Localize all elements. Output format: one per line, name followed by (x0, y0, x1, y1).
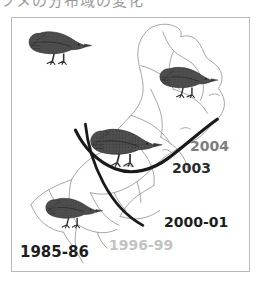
year-label-1985-86: 1985-86 (20, 243, 89, 261)
bird-northeast (160, 67, 218, 98)
map-panel: 1985-86 1996-99 2000-01 2003 2004 (11, 17, 250, 272)
figure-title: ツメの分布域の変化 (0, 0, 264, 10)
bird-southwest (46, 198, 103, 228)
distribution-map-figure: ツメの分布域の変化 (0, 0, 264, 290)
year-label-2000-01: 2000-01 (164, 214, 228, 230)
bird-northwest (29, 32, 92, 65)
year-label-2004: 2004 (190, 138, 229, 154)
year-label-1996-99: 1996-99 (109, 237, 173, 253)
year-label-2003: 2003 (172, 160, 211, 176)
